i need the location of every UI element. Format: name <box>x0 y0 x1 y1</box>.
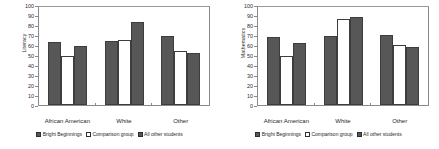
bar-all-other-students[interactable] <box>406 47 419 105</box>
legend-label: All other students <box>144 131 183 137</box>
bar-all-other-students[interactable] <box>131 22 144 105</box>
legend-swatch-icon <box>255 132 260 137</box>
chart-panel-mathematics: Mathematics 100 90 80 70 60 50 40 30 20 … <box>219 0 438 149</box>
legend-label: Comparison group <box>92 131 133 137</box>
y-tickmark <box>35 106 38 107</box>
bar-group-other <box>371 7 428 105</box>
legend-swatch-icon <box>86 132 91 137</box>
legend-label: All other students <box>363 131 402 137</box>
bar-all-other-students[interactable] <box>293 43 306 105</box>
bar-bright-beginnings[interactable] <box>380 35 393 105</box>
bar-bright-beginnings[interactable] <box>105 41 118 105</box>
bar-group-african-american <box>258 7 315 105</box>
bar-comparison-group[interactable] <box>280 56 293 105</box>
bar-comparison-group[interactable] <box>118 40 131 105</box>
bar-comparison-group[interactable] <box>61 56 74 105</box>
bar-all-other-students[interactable] <box>350 17 363 105</box>
bar-group-white <box>96 7 153 105</box>
legend-swatch-icon <box>357 132 362 137</box>
bar-all-other-students[interactable] <box>187 53 200 105</box>
bar-comparison-group[interactable] <box>174 51 187 105</box>
legend-swatch-icon <box>305 132 310 137</box>
bar-bright-beginnings[interactable] <box>267 37 280 105</box>
legend-swatch-icon <box>138 132 143 137</box>
bar-group-white <box>315 7 372 105</box>
legend-label: Bright Beginnings <box>262 131 301 137</box>
bar-bright-beginnings[interactable] <box>324 36 337 105</box>
legend-swatch-icon <box>36 132 41 137</box>
y-axis-ticklabels-mathematics: 100 90 80 70 60 50 40 30 20 10 0 <box>231 6 253 106</box>
legend-item-comparison-group[interactable]: Comparison group <box>86 131 134 137</box>
y-axis-ticklabels-literacy: 100 90 80 70 60 50 40 30 20 10 0 <box>12 6 34 106</box>
bar-all-other-students[interactable] <box>74 46 87 105</box>
bar-comparison-group[interactable] <box>393 45 406 105</box>
bar-groups-mathematics <box>258 7 428 105</box>
chart-area-literacy: Literacy 100 90 80 70 60 50 40 30 20 10 … <box>0 6 219 110</box>
legend-item-bright-beginnings[interactable]: Bright Beginnings <box>255 131 301 137</box>
y-tickmark <box>254 106 257 107</box>
legend-item-bright-beginnings[interactable]: Bright Beginnings <box>36 131 82 137</box>
chart-area-mathematics: Mathematics 100 90 80 70 60 50 40 30 20 … <box>219 6 438 110</box>
bar-group-african-american <box>39 7 96 105</box>
chart-panel-literacy: Literacy 100 90 80 70 60 50 40 30 20 10 … <box>0 0 219 149</box>
bar-group-other <box>152 7 209 105</box>
legend-literacy: Bright Beginnings Comparison group All o… <box>0 127 219 141</box>
legend-item-all-other-students[interactable]: All other students <box>138 131 183 137</box>
two-bar-charts-figure: Literacy 100 90 80 70 60 50 40 30 20 10 … <box>0 0 439 149</box>
bar-bright-beginnings[interactable] <box>48 42 61 105</box>
bar-bright-beginnings[interactable] <box>161 36 174 105</box>
legend-mathematics: Bright Beginnings Comparison group All o… <box>219 127 438 141</box>
legend-item-comparison-group[interactable]: Comparison group <box>305 131 353 137</box>
bar-groups-literacy <box>39 7 209 105</box>
y-tick-label: 100 <box>25 3 34 9</box>
y-tick-label: 100 <box>244 3 253 9</box>
legend-label: Comparison group <box>311 131 352 137</box>
legend-label: Bright Beginnings <box>43 131 82 137</box>
bar-comparison-group[interactable] <box>337 19 350 105</box>
legend-item-all-other-students[interactable]: All other students <box>357 131 402 137</box>
